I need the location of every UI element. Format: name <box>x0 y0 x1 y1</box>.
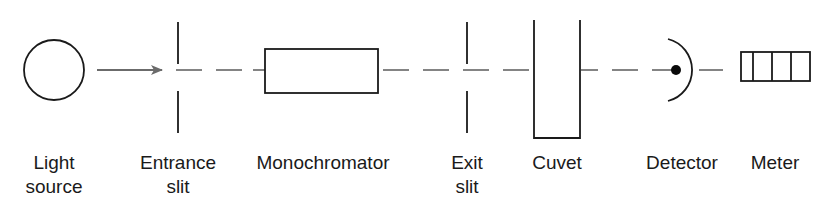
label-light-source: Light source <box>25 151 82 199</box>
label-meter: Meter <box>751 151 800 175</box>
label-entrance-slit-line1: Entrance <box>140 151 216 175</box>
label-cuvet-line1: Cuvet <box>532 151 582 175</box>
label-entrance-slit-line2: slit <box>140 175 216 199</box>
cuvet-icon <box>534 20 580 138</box>
meter-icon <box>741 52 810 81</box>
label-exit-slit: Exit slit <box>451 151 483 199</box>
label-detector: Detector <box>646 151 718 175</box>
label-cuvet: Cuvet <box>532 151 582 175</box>
label-detector-line1: Detector <box>646 151 718 175</box>
monochromator-icon <box>265 49 378 93</box>
label-light-source-line1: Light <box>25 151 82 175</box>
light-source-icon <box>24 40 84 100</box>
label-exit-slit-line2: slit <box>451 175 483 199</box>
label-exit-slit-line1: Exit <box>451 151 483 175</box>
label-monochromator: Monochromator <box>256 151 389 175</box>
label-meter-line1: Meter <box>751 151 800 175</box>
label-light-source-line2: source <box>25 175 82 199</box>
detector-icon <box>668 39 723 101</box>
spectrophotometer-diagram <box>0 0 831 207</box>
label-entrance-slit: Entrance slit <box>140 151 216 199</box>
label-monochromator-line1: Monochromator <box>256 151 389 175</box>
